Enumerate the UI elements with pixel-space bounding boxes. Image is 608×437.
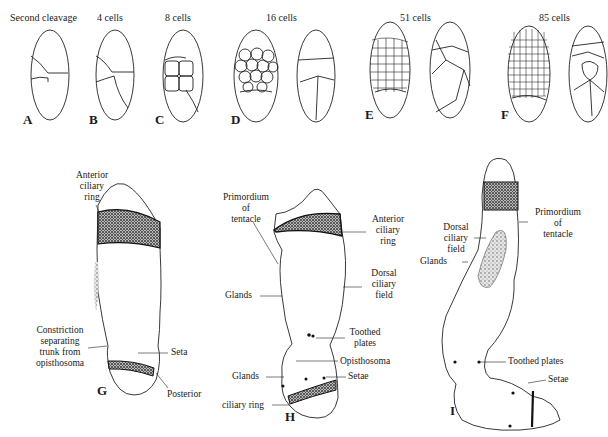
- larva-h-drawing: [274, 189, 346, 418]
- stage-title-4-cells: 4 cells: [97, 12, 123, 23]
- panel-letter-f: F: [501, 107, 509, 123]
- embryo-d-drawing: [234, 30, 335, 122]
- larva-i-drawing: [442, 158, 560, 430]
- label-line: plates: [340, 338, 390, 349]
- panel-letter-h: H: [285, 409, 295, 425]
- label-line: Constriction: [28, 325, 92, 336]
- label-line: Primordium: [218, 192, 274, 203]
- embryo-e-drawing: [370, 22, 470, 118]
- label-h-ciliary-ring: ciliary ring: [222, 400, 264, 411]
- label-i-primordium-of-tentacle: Primordium of tentacle: [530, 207, 586, 240]
- label-line: ciliary: [64, 181, 120, 192]
- label-i-glands: Glands: [420, 256, 447, 267]
- panel-letter-i: I: [450, 403, 455, 419]
- embryo-b-drawing: [96, 30, 134, 120]
- panel-letter-d: D: [231, 112, 240, 128]
- label-line: tentacle: [218, 214, 274, 225]
- label-line: Anterior: [64, 170, 120, 181]
- label-i-toothed-plates: Toothed plates: [508, 356, 564, 367]
- embryo-a-drawing: [31, 30, 69, 120]
- stage-title-85-cells: 85 cells: [539, 12, 570, 23]
- label-i-dorsal-ciliary-field: Dorsal ciliary field: [436, 222, 476, 255]
- label-line: field: [436, 244, 476, 255]
- label-i-setae: Setae: [548, 374, 569, 385]
- label-line: Toothed: [340, 327, 390, 338]
- label-line: Primordium: [530, 207, 586, 218]
- panel-letter-g: G: [97, 383, 107, 399]
- stage-title-second-cleavage: Second cleavage: [10, 12, 77, 23]
- panel-letter-e: E: [365, 107, 374, 123]
- panel-letter-b: B: [89, 112, 98, 128]
- panel-letter-a: A: [23, 112, 32, 128]
- label-g-constriction: Constriction separating trunk from opist…: [28, 325, 92, 369]
- label-line: Dorsal: [360, 268, 408, 279]
- stage-title-16-cells: 16 cells: [266, 12, 297, 23]
- label-h-setae: Setae: [348, 371, 369, 382]
- label-line: separating: [28, 336, 92, 347]
- label-line: Dorsal: [436, 222, 476, 233]
- stage-title-51-cells: 51 cells: [400, 12, 431, 23]
- stage-title-8-cells: 8 cells: [165, 12, 191, 23]
- label-line: tentacle: [530, 229, 586, 240]
- label-h-primordium-of-tentacle: Primordium of tentacle: [218, 192, 274, 225]
- larva-g-drawing: [94, 183, 161, 395]
- label-line: of: [218, 203, 274, 214]
- figure-drawings: [0, 0, 608, 437]
- embryo-c-drawing: [163, 30, 203, 122]
- label-line: ring: [364, 236, 412, 247]
- label-h-glands-upper: Glands: [225, 290, 252, 301]
- label-g-posterior: Posterior: [167, 389, 201, 400]
- label-h-anterior-ciliary-ring: Anterior ciliary ring: [364, 214, 412, 247]
- label-h-toothed-plates: Toothed plates: [340, 327, 390, 349]
- embryo-f-drawing: [508, 26, 607, 122]
- label-h-dorsal-ciliary-field: Dorsal ciliary field: [360, 268, 408, 301]
- label-h-glands-lower: Glands: [232, 371, 259, 382]
- label-g-seta: Seta: [171, 347, 187, 358]
- label-g-anterior-ciliary-ring: Anterior ciliary ring: [64, 170, 120, 203]
- label-line: ciliary: [436, 233, 476, 244]
- label-h-opisthosoma: Opisthosoma: [340, 356, 390, 367]
- label-line: ciliary: [360, 279, 408, 290]
- panel-letter-c: C: [155, 112, 164, 128]
- label-line: ring: [64, 192, 120, 203]
- label-line: opisthosoma: [28, 358, 92, 369]
- label-line: field: [360, 290, 408, 301]
- label-line: Anterior: [364, 214, 412, 225]
- label-line: trunk from: [28, 347, 92, 358]
- label-line: ciliary: [364, 225, 412, 236]
- label-line: of: [530, 218, 586, 229]
